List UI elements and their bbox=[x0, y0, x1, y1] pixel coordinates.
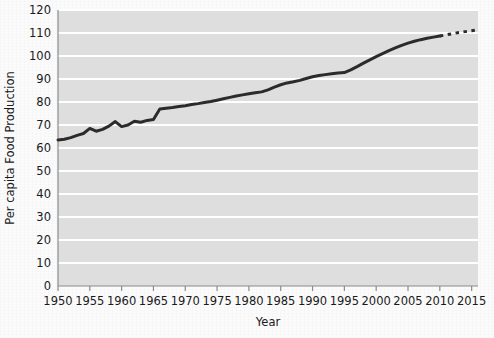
y-axis-tick-label: 40 bbox=[36, 187, 51, 201]
x-axis-tick-label: 2005 bbox=[393, 294, 422, 308]
x-axis-tick-label: 1965 bbox=[139, 294, 168, 308]
x-axis-title: Year bbox=[255, 315, 281, 329]
y-axis-tick-label: 30 bbox=[36, 210, 51, 224]
y-axis-tick-labels: 0102030405060708090100110120 bbox=[29, 3, 51, 293]
x-axis-tick-label: 1955 bbox=[75, 294, 104, 308]
y-axis-title: Per capita Food Production bbox=[3, 71, 17, 224]
y-axis-tick-label: 90 bbox=[36, 72, 51, 86]
line-chart: 0102030405060708090100110120 19501955196… bbox=[0, 0, 494, 338]
y-axis-tick-label: 70 bbox=[36, 118, 51, 132]
x-axis-tick-label: 1985 bbox=[266, 294, 295, 308]
y-axis-tick-label: 100 bbox=[29, 49, 51, 63]
x-axis-tick-label: 1980 bbox=[234, 294, 263, 308]
x-axis-tick-labels: 1950195519601965197019751980198519901995… bbox=[43, 294, 486, 308]
x-axis-tick-label: 1995 bbox=[330, 294, 359, 308]
x-axis-tick-label: 2000 bbox=[362, 294, 391, 308]
x-axis-tick-label: 2015 bbox=[457, 294, 486, 308]
y-axis-tick-label: 120 bbox=[29, 3, 51, 17]
y-axis-tick-label: 20 bbox=[36, 233, 51, 247]
x-axis-ticks bbox=[58, 286, 472, 291]
y-axis-tick-label: 80 bbox=[36, 95, 51, 109]
y-axis-tick-label: 10 bbox=[36, 256, 51, 270]
x-axis-tick-label: 1990 bbox=[298, 294, 327, 308]
x-axis-tick-label: 1960 bbox=[107, 294, 136, 308]
x-axis-tick-label: 1975 bbox=[202, 294, 231, 308]
x-axis-tick-label: 1950 bbox=[43, 294, 72, 308]
y-axis-tick-label: 110 bbox=[29, 26, 51, 40]
y-axis-tick-label: 50 bbox=[36, 164, 51, 178]
x-axis-tick-label: 2010 bbox=[425, 294, 454, 308]
y-axis-tick-label: 60 bbox=[36, 141, 51, 155]
y-axis-tick-label: 0 bbox=[44, 279, 51, 293]
chart-figure: 0102030405060708090100110120 19501955196… bbox=[0, 0, 494, 338]
x-axis-tick-label: 1970 bbox=[171, 294, 200, 308]
